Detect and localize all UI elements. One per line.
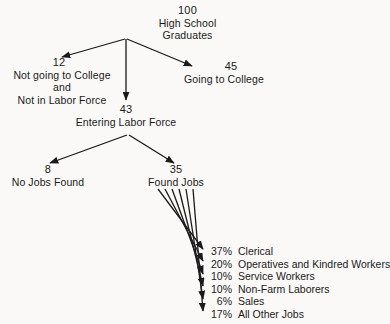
node-label-line2: and: [0, 81, 124, 94]
node-label-line1: Entering Labor Force: [56, 116, 196, 129]
job-name: Non-Farm Laborers: [238, 283, 330, 296]
edge-entering-to-no-jobs: [50, 135, 127, 163]
node-label-line1: Not going to College: [0, 69, 124, 82]
job-percent: 10%: [206, 283, 232, 296]
edge-found-jobs-to-job-2: [172, 189, 203, 274]
list-item: 37% Clerical: [206, 245, 390, 258]
job-breakdown-list: 37% Clerical 20% Operatives and Kindred …: [206, 245, 390, 321]
node-value: 43: [56, 103, 196, 116]
node-label-line2: Graduates: [0, 29, 375, 42]
edge-found-jobs-to-job-4: [186, 189, 203, 299]
edge-found-jobs-to-job-5: [193, 189, 203, 311]
job-name: Sales: [238, 295, 264, 308]
job-percent: 10%: [206, 270, 232, 283]
list-item: 20% Operatives and Kindred Workers: [206, 258, 390, 271]
job-percent: 20%: [206, 258, 232, 271]
edge-root-to-not-college: [62, 39, 125, 57]
node-found-jobs: 35 Found Jobs: [138, 163, 214, 188]
node-value: 100: [0, 4, 375, 17]
edge-found-jobs-to-job-0: [158, 189, 203, 249]
node-label-line1: Found Jobs: [138, 176, 214, 189]
node-going-to-college: 45 Going to College: [160, 60, 288, 85]
edge-found-jobs-to-job-3: [179, 189, 203, 286]
node-no-jobs-found: 8 No Jobs Found: [0, 163, 96, 188]
job-name: All Other Jobs: [238, 308, 304, 321]
list-item: 10% Non-Farm Laborers: [206, 283, 390, 296]
list-item: 10% Service Workers: [206, 270, 390, 283]
node-value: 45: [174, 60, 288, 73]
job-name: Operatives and Kindred Workers: [238, 258, 390, 271]
node-label-line1: No Jobs Found: [0, 176, 96, 189]
node-not-going-to-college: 12 Not going to College and Not in Labor…: [0, 56, 124, 106]
list-item: 6% Sales: [206, 295, 390, 308]
node-entering-labor-force: 43 Entering Labor Force: [56, 103, 196, 128]
job-name: Clerical: [238, 245, 273, 258]
node-value: 35: [138, 163, 214, 176]
edge-entering-to-found-jobs: [129, 135, 174, 163]
job-name: Service Workers: [238, 270, 315, 283]
job-percent: 37%: [206, 245, 232, 258]
node-value: 8: [0, 163, 96, 176]
node-value: 12: [0, 56, 124, 69]
list-item: 17% All Other Jobs: [206, 308, 390, 321]
node-label-line1: High School: [0, 17, 375, 30]
node-high-school-graduates: 100 High School Graduates: [0, 4, 375, 42]
job-percent: 6%: [206, 295, 232, 308]
job-percent: 17%: [206, 308, 232, 321]
node-label-line1: Going to College: [160, 73, 288, 86]
edge-found-jobs-to-job-1: [165, 189, 203, 261]
